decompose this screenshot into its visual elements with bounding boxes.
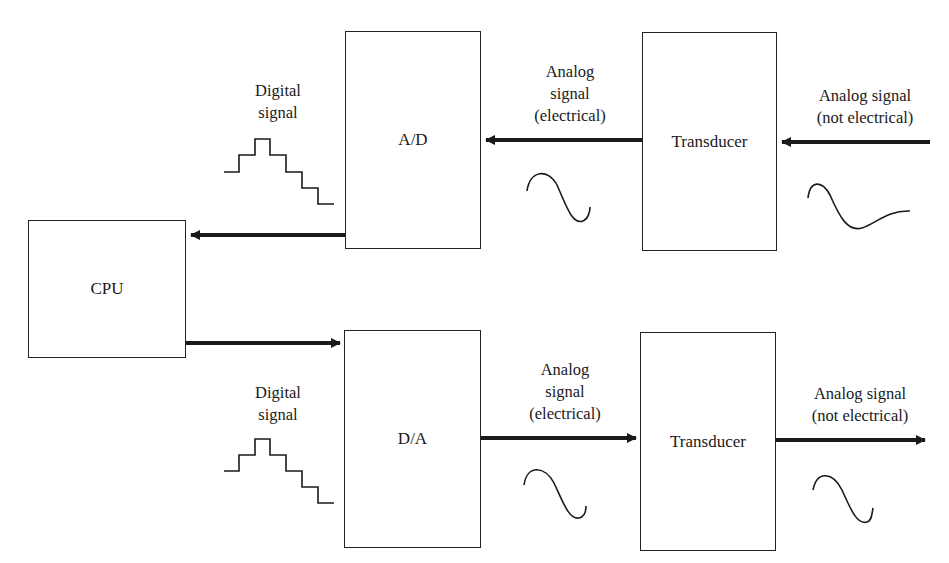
top-analog-electrical-label: Analog signal (electrical) (510, 61, 630, 127)
top-digital-signal-label: Digital signal (228, 80, 328, 124)
analog-nonelectrical-wave-icon (808, 184, 910, 229)
analog-nonelectrical-wave-icon (813, 476, 873, 523)
bottom-analog-nonelectrical-label: Analog signal (not electrical) (785, 383, 935, 427)
bottom-analog-electrical-label: Analog signal (electrical) (505, 359, 625, 425)
digital-waveform-icon (224, 439, 334, 503)
bottom-digital-signal-label: Digital signal (228, 382, 328, 426)
analog-electrical-wave-icon (527, 174, 590, 222)
digital-waveform-icon (224, 139, 334, 204)
analog-electrical-wave-icon (524, 470, 586, 518)
top-analog-nonelectrical-label: Analog signal (not electrical) (790, 85, 940, 129)
